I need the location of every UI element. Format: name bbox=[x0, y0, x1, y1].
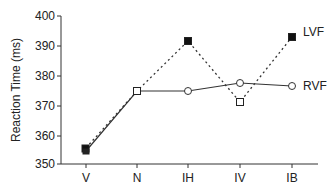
svg-text:380: 380 bbox=[35, 69, 55, 83]
svg-text:360: 360 bbox=[35, 129, 55, 143]
svg-text:IB: IB bbox=[286, 171, 297, 185]
svg-text:N: N bbox=[133, 171, 142, 185]
svg-text:400: 400 bbox=[35, 9, 55, 23]
x-tick-labels: V N IH IV IB bbox=[82, 171, 298, 185]
y-tick-labels: 400 390 380 370 360 350 bbox=[35, 9, 55, 171]
legend-rvf: RVF bbox=[303, 79, 327, 93]
y-axis-title: Reaction Time (ms) bbox=[9, 38, 23, 142]
svg-text:V: V bbox=[82, 171, 90, 185]
x-ticks bbox=[86, 164, 292, 168]
series-rvf-markers bbox=[185, 80, 296, 95]
svg-text:IH: IH bbox=[182, 171, 194, 185]
svg-text:IV: IV bbox=[234, 171, 245, 185]
chart: 400 390 380 370 360 350 V N IH IV IB Rea… bbox=[0, 0, 335, 194]
legend-lvf: LVF bbox=[303, 25, 324, 39]
svg-text:350: 350 bbox=[35, 157, 55, 171]
y-ticks bbox=[57, 16, 61, 164]
svg-text:370: 370 bbox=[35, 99, 55, 113]
svg-text:390: 390 bbox=[35, 39, 55, 53]
